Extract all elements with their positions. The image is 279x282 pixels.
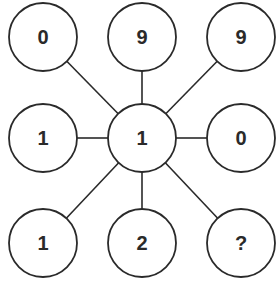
- node-bottom-right-label: ?: [235, 232, 247, 254]
- node-middle-right: 0: [207, 104, 275, 172]
- connector-line-bottom-right: [165, 163, 217, 219]
- node-top-center: 9: [108, 3, 176, 71]
- diagram-canvas: 10991012?: [0, 0, 279, 282]
- node-bottom-left-label: 1: [37, 232, 48, 254]
- puzzle-diagram: 10991012? 1 0 9 9 1 0 1 2 ?: [0, 0, 279, 282]
- center-node-label: 1: [136, 127, 147, 149]
- center-node: 1: [108, 104, 176, 172]
- node-top-left: 0: [9, 3, 77, 71]
- connector-line-top-left: [67, 61, 118, 113]
- node-top-right-label: 9: [235, 26, 246, 48]
- node-middle-left-label: 1: [37, 127, 48, 149]
- node-middle-right-label: 0: [235, 127, 246, 149]
- node-bottom-center-label: 2: [136, 232, 147, 254]
- connector-line-bottom-left: [66, 163, 118, 219]
- node-top-center-label: 9: [136, 26, 147, 48]
- node-bottom-right: ?: [207, 209, 275, 277]
- node-middle-left: 1: [9, 104, 77, 172]
- node-bottom-center: 2: [108, 209, 176, 277]
- number-circles: 10991012?: [9, 3, 275, 277]
- connector-line-top-right: [166, 61, 217, 113]
- node-top-right: 9: [207, 3, 275, 71]
- node-bottom-left: 1: [9, 209, 77, 277]
- node-top-left-label: 0: [37, 26, 48, 48]
